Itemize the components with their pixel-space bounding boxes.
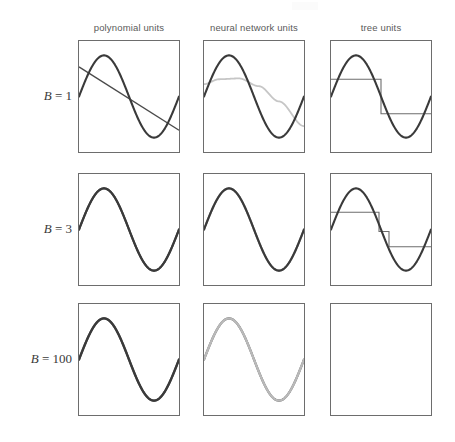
row-label-value: 3 xyxy=(66,221,73,236)
row-label-value: 100 xyxy=(53,351,73,366)
row-label-b-100: B = 100 xyxy=(12,351,72,367)
column-header-tree-units: tree units xyxy=(330,22,432,33)
row-label-symbol: B xyxy=(44,221,52,236)
row-label-b-3: B = 3 xyxy=(12,221,72,237)
figure-container: polynomial units neural network units tr… xyxy=(0,0,455,442)
panel-b100-tree-units xyxy=(330,303,432,416)
panel-b3-polynomial-units xyxy=(78,173,180,286)
panel-b1-tree-units xyxy=(330,40,432,153)
column-header-polynomial-units: polynomial units xyxy=(78,22,180,33)
panel-b100-polynomial-units xyxy=(78,303,180,416)
panel-b1-neural-network-units xyxy=(203,40,305,153)
row-label-symbol: B xyxy=(31,351,39,366)
row-label-symbol: B xyxy=(44,88,52,103)
panel-b3-tree-units xyxy=(330,173,432,286)
row-label-value: 1 xyxy=(66,88,73,103)
top-scan-artifact xyxy=(292,2,318,10)
row-label-b-1: B = 1 xyxy=(12,88,72,104)
column-header-neural-network-units: neural network units xyxy=(203,22,305,33)
panel-b100-neural-network-units xyxy=(203,303,305,416)
panel-b1-polynomial-units xyxy=(78,40,180,153)
panel-b3-neural-network-units xyxy=(203,173,305,286)
